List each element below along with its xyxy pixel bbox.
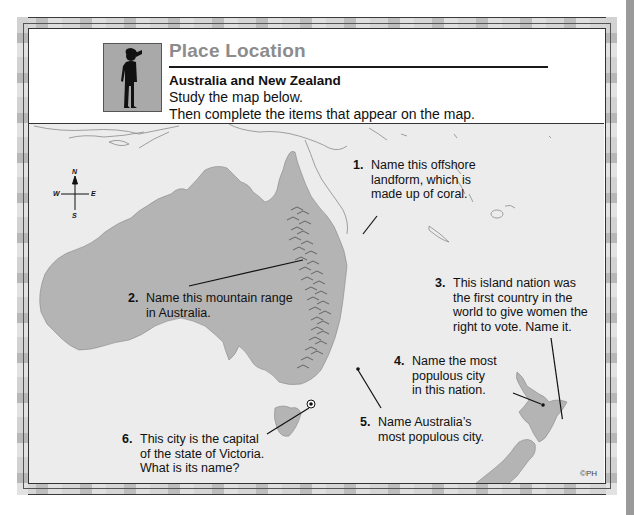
question-2: 2. Name this mountain range in Australia…: [146, 291, 293, 320]
auckland-marker: [541, 403, 545, 407]
activity-panel: Place Location Australia and New Zealand…: [28, 28, 606, 484]
question-1: 1. Name this offshore landform, which is…: [371, 158, 476, 202]
compass-n-label: N: [72, 168, 77, 175]
map-australia-new-zealand: N W E S 1. Name this offshore landform, …: [29, 123, 604, 483]
australia-landmass: [40, 151, 347, 384]
compass-e-label: E: [91, 190, 96, 197]
compass-rose: [61, 176, 89, 210]
page-title: Place Location: [169, 40, 306, 62]
subtitle: Australia and New Zealand: [169, 73, 341, 88]
question-4: 4. Name the most populous city in this n…: [412, 354, 497, 398]
compass-w-label: W: [53, 190, 60, 197]
copyright-label: ©PH: [580, 469, 597, 478]
question-3: 3. This island nation was the first coun…: [453, 276, 588, 334]
nz-south-island: [469, 439, 536, 483]
nz-north-island: [516, 372, 567, 442]
instruction-line: Then complete the items that appear on t…: [169, 106, 475, 122]
question-6: 6. This city is the capital of the state…: [140, 432, 264, 476]
question-5: 5. Name Australia’s most populous city.: [378, 415, 484, 444]
compass-s-label: S: [72, 212, 77, 219]
instruction-line: Study the map below.: [169, 89, 303, 105]
activity-header: Place Location Australia and New Zealand…: [29, 29, 604, 123]
person-looking-icon: [103, 43, 162, 112]
title-rule: [169, 66, 548, 68]
page-edge-strip: [626, 0, 634, 515]
